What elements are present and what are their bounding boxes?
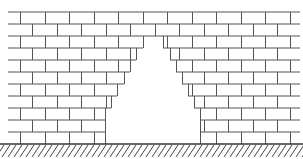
brick-wall-diagram <box>0 0 303 159</box>
brick-courses <box>8 12 300 144</box>
ground-hatching <box>0 144 303 157</box>
diagram-stage <box>0 0 303 159</box>
